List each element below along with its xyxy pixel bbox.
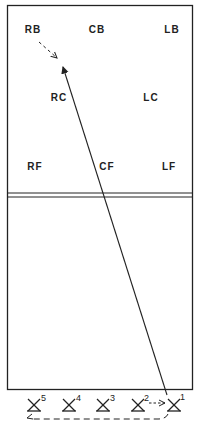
server-symbol-4 <box>62 399 76 411</box>
return-arrowhead-icon <box>27 414 33 419</box>
rotation-return-arrow <box>30 414 168 419</box>
server-symbol-5 <box>27 399 41 411</box>
server-number-1: 1 <box>180 392 185 402</box>
serve-trajectory-arrow <box>63 67 167 395</box>
position-label-lb: LB <box>164 24 179 35</box>
position-labels: RB CB LB RC LC RF CF LF <box>25 24 180 172</box>
server-number-2: 2 <box>144 393 149 403</box>
position-label-cb: CB <box>89 24 105 35</box>
position-label-cf: CF <box>99 161 114 172</box>
position-label-rf: RF <box>27 161 42 172</box>
court-diagram: RB CB LB RC LC RF CF LF 5 4 3 <box>0 0 200 427</box>
position-label-rb: RB <box>25 24 41 35</box>
position-label-lf: LF <box>162 161 176 172</box>
server-rotation: 5 4 3 2 1 <box>27 392 185 411</box>
server-symbol-2 <box>131 399 145 411</box>
server-number-4: 4 <box>76 393 81 403</box>
position-label-lc: LC <box>143 92 158 103</box>
server-number-5: 5 <box>41 393 46 403</box>
server-symbol-1 <box>167 399 181 411</box>
rb-movement-arrow <box>39 42 57 58</box>
server-number-3: 3 <box>110 393 115 403</box>
server-symbol-3 <box>96 399 110 411</box>
position-label-rc: RC <box>51 92 67 103</box>
